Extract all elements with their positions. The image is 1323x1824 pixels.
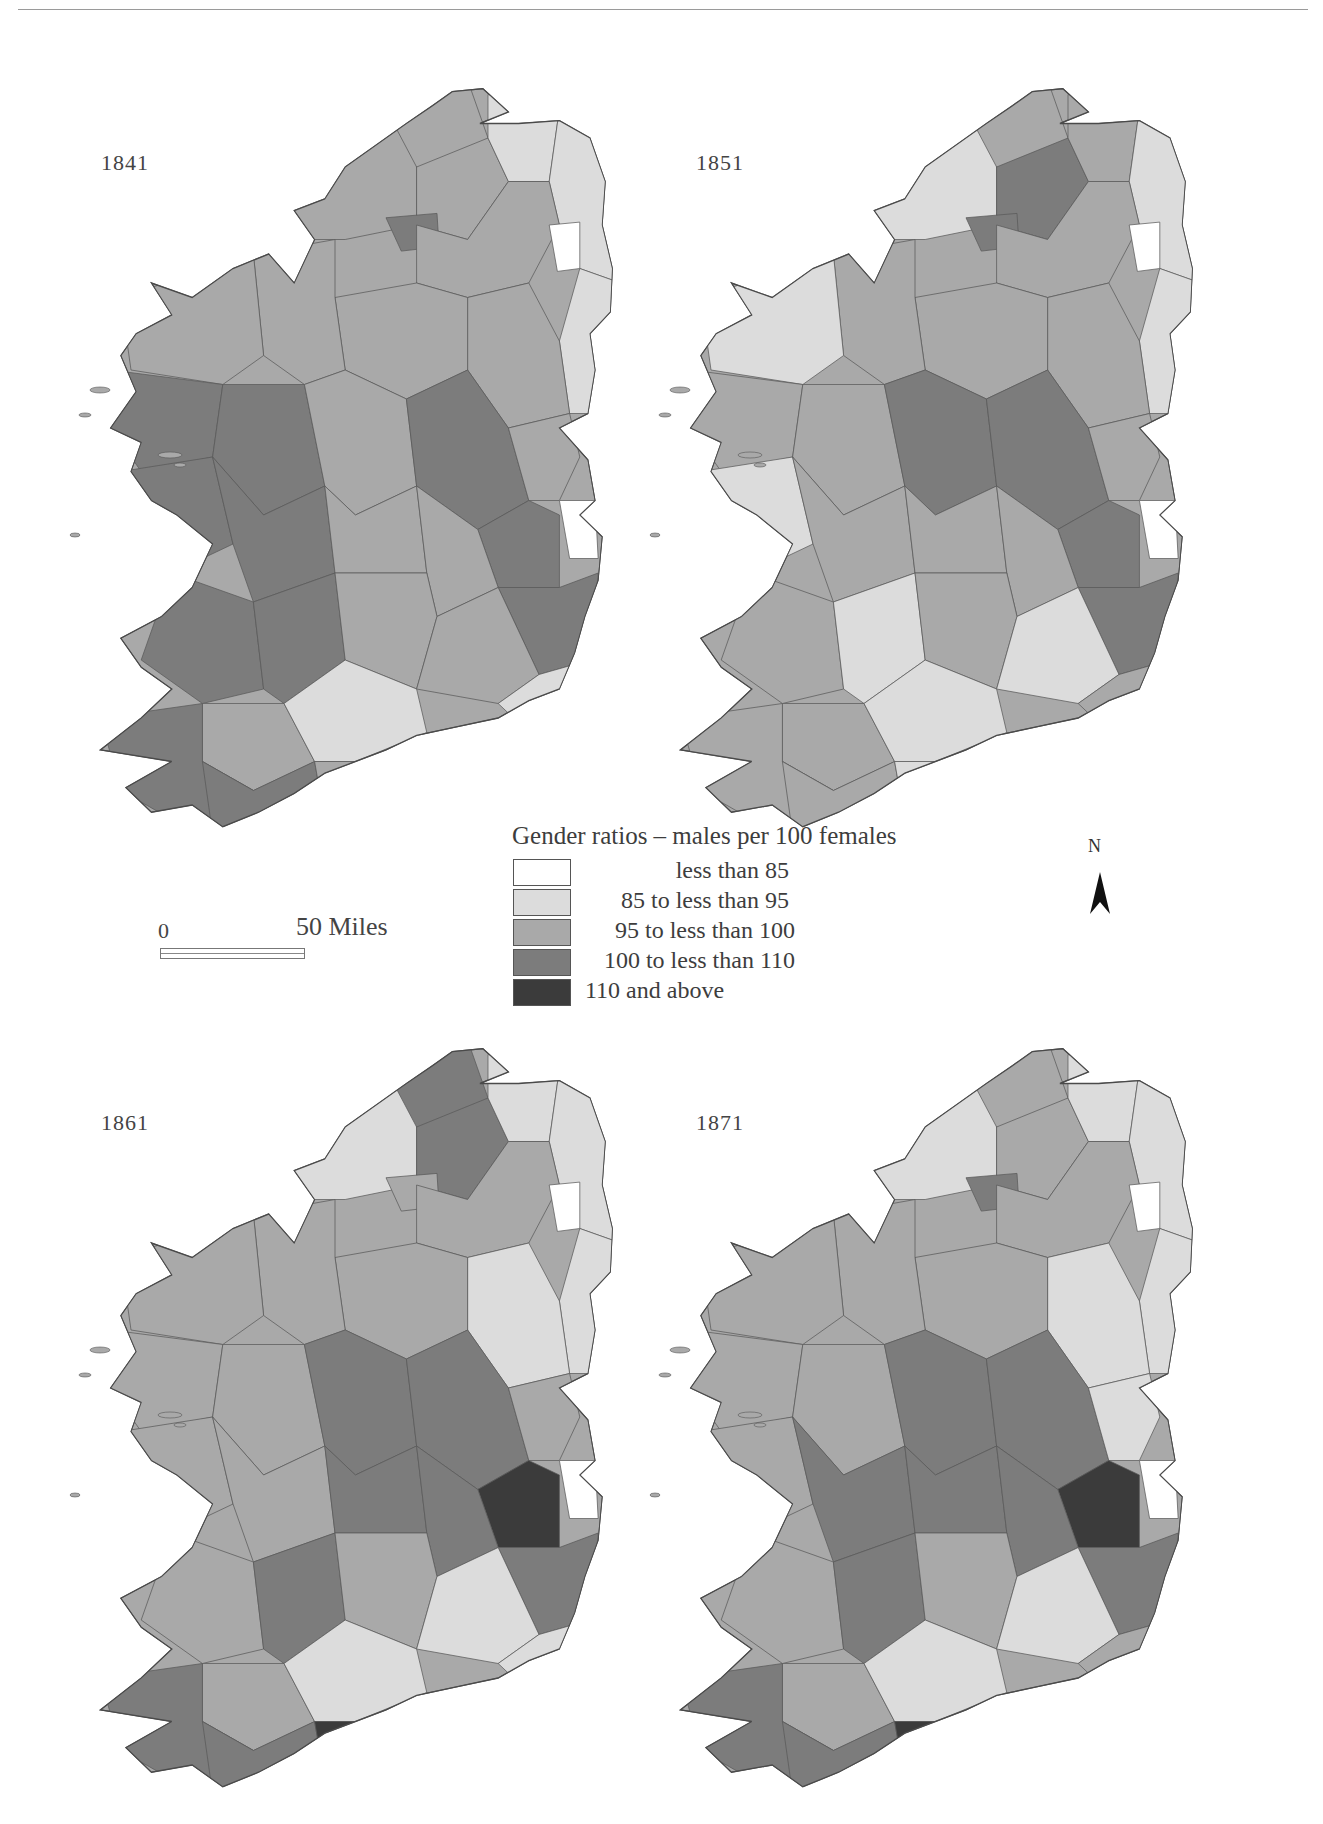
island: [670, 387, 690, 393]
island: [70, 533, 80, 537]
legend-swatch: [513, 979, 571, 1006]
legend-item: 85 to less than 95: [513, 886, 897, 916]
island: [650, 1493, 660, 1497]
year-label: 1841: [101, 150, 149, 176]
district-region: [895, 762, 946, 820]
scale-bar-graphic: [160, 948, 305, 959]
year-label: 1871: [696, 1110, 744, 1136]
legend-label: 110 and above: [585, 977, 831, 1004]
map-1861: [60, 1020, 660, 1820]
district-region: [121, 254, 264, 385]
year-label: 1861: [101, 1110, 149, 1136]
scale-start-label: 0: [158, 918, 169, 944]
top-rule: [18, 9, 1308, 10]
island: [90, 1347, 110, 1353]
map-panel-1861: 1861: [60, 1020, 660, 1820]
legend-item: less than 85: [513, 856, 897, 886]
island: [738, 1412, 762, 1418]
island: [79, 413, 91, 417]
legend-label: 85 to less than 95: [585, 887, 789, 914]
map-panel-1871: 1871: [640, 1020, 1240, 1820]
legend-label: 100 to less than 110: [585, 947, 795, 974]
legend-title: Gender ratios – males per 100 females: [512, 822, 897, 850]
island: [174, 463, 186, 467]
scale-end-label: 50 Miles: [296, 912, 388, 942]
district-region: [701, 1214, 844, 1345]
legend-label: 95 to less than 100: [585, 917, 795, 944]
island: [174, 1423, 186, 1427]
north-arrow-icon: [1080, 836, 1120, 916]
island: [659, 413, 671, 417]
year-label: 1851: [696, 150, 744, 176]
island: [90, 387, 110, 393]
map-panel-1851: 1851: [640, 60, 1240, 860]
legend-swatch: [513, 859, 571, 886]
legend-swatch: [513, 949, 571, 976]
island: [79, 1373, 91, 1377]
north-arrow: N: [1080, 836, 1120, 916]
map-1851: [640, 60, 1240, 860]
district-region: [315, 762, 366, 820]
legend: Gender ratios – males per 100 females le…: [513, 822, 897, 1006]
legend-swatch: [513, 919, 571, 946]
map-1841: [60, 60, 660, 860]
island: [754, 1423, 766, 1427]
island: [70, 1493, 80, 1497]
island: [158, 452, 182, 458]
island: [659, 1373, 671, 1377]
island: [670, 1347, 690, 1353]
island: [158, 1412, 182, 1418]
island: [650, 533, 660, 537]
map-1871: [640, 1020, 1240, 1820]
district-region: [315, 1722, 366, 1780]
island: [738, 452, 762, 458]
district-region: [121, 1214, 264, 1345]
district-region: [701, 254, 844, 385]
legend-item: 100 to less than 110: [513, 946, 897, 976]
legend-swatch: [513, 889, 571, 916]
island: [754, 463, 766, 467]
map-panel-1841: 1841: [60, 60, 660, 860]
district-region: [895, 1722, 946, 1780]
legend-label: less than 85: [585, 857, 789, 884]
legend-item: 110 and above: [513, 976, 897, 1006]
legend-item: 95 to less than 100: [513, 916, 897, 946]
